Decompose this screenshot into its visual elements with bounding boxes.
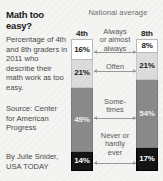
byline-credit: By Julie Snider, USA TODAY [6,152,72,171]
page-title: Math too easy? [6,9,68,31]
segment-grade4-sometimes: 49% [71,88,93,153]
value-grade8-never: 17% [139,155,154,163]
column-header-grade8: 8th [136,29,158,38]
value-grade8-sometimes: 54% [139,110,154,118]
bar-grade4: 16% 21% 49% 14% [71,39,93,171]
value-grade8-often: 21% [139,62,154,70]
category-often-line1: Often [94,63,136,71]
category-label-never: Never or hardly ever [94,132,136,157]
category-sometimes-line2: times [94,106,136,114]
value-grade4-often: 21% [74,69,89,77]
chart-title: National average [76,8,160,17]
deck-text: Percentage of 4th and 8th graders in 201… [6,35,68,93]
connector-arrow-sometimes [94,118,136,119]
source-credit: Source: Center for American Progress [6,104,68,133]
category-label-often: Often [94,63,136,71]
category-label-sometimes: Some- times [94,98,136,115]
segment-grade8-sometimes: 54% [136,80,158,148]
segment-grade8-often: 21% [136,53,158,81]
segment-grade4-never: 14% [71,152,93,171]
category-never-line3: ever [94,149,136,157]
category-label-always: Always or almost always [94,28,136,53]
segment-grade8-never: 17% [136,148,158,170]
value-grade4-never: 14% [74,157,89,165]
bar-grade8: 8% 21% 54% 17% [136,39,158,171]
column-header-grade4: 4th [71,29,93,38]
connector-arrow-never [94,163,136,164]
left-text-column: Math too easy? Percentage of 4th and 8th… [6,9,68,93]
value-grade4-sometimes: 49% [74,116,89,124]
segment-grade4-often: 21% [71,60,93,88]
stacked-bar-chart: National average 4th 8th 16% 21% 49% 14%… [70,8,160,174]
value-grade8-always: 8% [141,42,152,50]
category-always-line3: always [94,45,136,53]
value-grade4-always: 16% [74,46,89,54]
segment-grade4-always: 16% [71,39,93,60]
segment-grade8-always: 8% [136,39,158,53]
infographic-panel: Math too easy? Percentage of 4th and 8th… [0,0,163,181]
